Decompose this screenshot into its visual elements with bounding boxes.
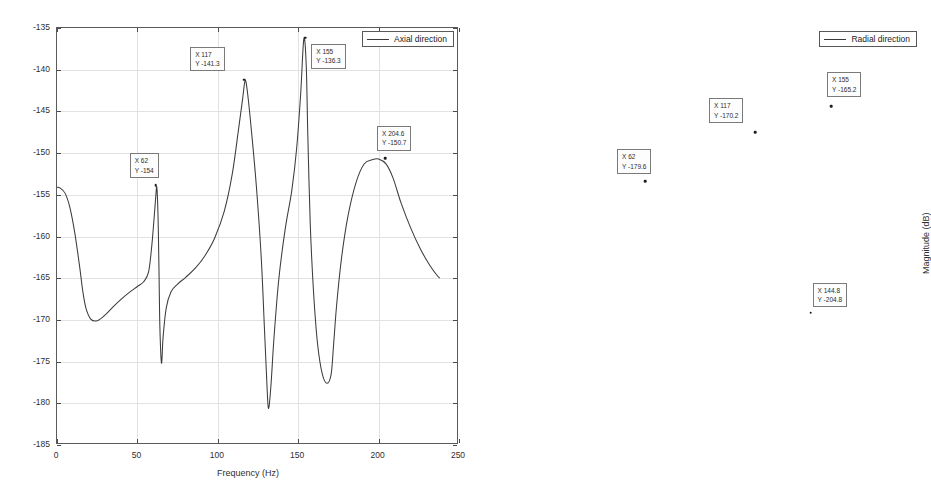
data-curve-axial bbox=[57, 28, 459, 445]
data-point-marker[interactable] bbox=[384, 157, 387, 160]
data-tip-label[interactable]: X 204.6Y -150.7 bbox=[377, 126, 411, 151]
data-tip-x-value: X 155 bbox=[316, 47, 340, 56]
y-axis-tick-label: -140 bbox=[4, 64, 50, 73]
y-axis-tick-label: -135 bbox=[4, 23, 50, 32]
data-point-marker[interactable] bbox=[644, 180, 647, 183]
data-tip-y-value: Y -150.7 bbox=[382, 138, 406, 147]
data-tip-x-value: X 144.8 bbox=[818, 286, 842, 295]
data-tip-x-value: X 155 bbox=[832, 75, 856, 84]
data-tip-y-value: Y -136.3 bbox=[316, 56, 340, 65]
x-axis-tick-label: 150 bbox=[290, 451, 304, 460]
legend-radial[interactable]: Radial direction bbox=[819, 31, 917, 47]
panel-axial: -135-140-145-150-155-160-165-170-175-180… bbox=[0, 0, 466, 502]
x-axis-tick-label: 250 bbox=[451, 451, 465, 460]
legend-label: Axial direction bbox=[394, 34, 447, 44]
figure-two-panel-frequency-response: -135-140-145-150-155-160-165-170-175-180… bbox=[0, 0, 931, 502]
x-tick-mark bbox=[459, 28, 460, 32]
y-axis-tick-label: -150 bbox=[4, 148, 50, 157]
data-tip-x-value: X 117 bbox=[714, 101, 738, 110]
data-tip-label[interactable]: X 117Y -170.2 bbox=[709, 98, 743, 123]
data-tip-x-value: X 62 bbox=[135, 156, 154, 165]
data-tip-label[interactable]: X 117Y -141.3 bbox=[190, 47, 224, 72]
x-tick-mark bbox=[459, 439, 460, 443]
legend-axial[interactable]: Axial direction bbox=[362, 31, 454, 47]
legend-line-swatch bbox=[367, 39, 389, 40]
plot-area-axial bbox=[56, 27, 458, 444]
data-point-marker[interactable] bbox=[243, 78, 246, 81]
y-axis-tick-label: -160 bbox=[4, 231, 50, 240]
data-tip-label[interactable]: X 144.8Y -204.8 bbox=[813, 283, 847, 308]
x-axis-tick-label: 200 bbox=[371, 451, 385, 460]
y-tick-mark bbox=[57, 445, 61, 446]
data-tip-x-value: X 62 bbox=[622, 152, 646, 161]
y-axis-tick-label: -155 bbox=[4, 190, 50, 199]
data-point-marker[interactable] bbox=[830, 105, 833, 108]
data-tip-label[interactable]: X 155Y -165.2 bbox=[827, 72, 861, 97]
x-axis-tick-label: 50 bbox=[132, 451, 141, 460]
data-tip-x-value: X 117 bbox=[195, 50, 219, 59]
x-axis-tick-label: 0 bbox=[54, 451, 59, 460]
x-axis-tick-label: 100 bbox=[210, 451, 224, 460]
y-tick-mark bbox=[453, 445, 457, 446]
x-axis-title: Frequency (Hz) bbox=[217, 468, 279, 478]
data-tip-label[interactable]: X 155Y -136.3 bbox=[311, 44, 345, 69]
data-tip-y-value: Y -179.6 bbox=[622, 162, 646, 171]
series-path bbox=[57, 38, 440, 408]
data-tip-y-value: Y -165.2 bbox=[832, 85, 856, 94]
data-point-marker[interactable] bbox=[304, 37, 307, 40]
legend-label: Radial direction bbox=[851, 34, 910, 44]
data-point-marker[interactable] bbox=[754, 131, 757, 134]
y-axis-tick-label: -175 bbox=[4, 356, 50, 365]
y-axis-tick-label: -180 bbox=[4, 398, 50, 407]
data-tip-label[interactable]: X 62Y -154 bbox=[130, 153, 159, 178]
legend-line-swatch bbox=[824, 39, 846, 40]
y-axis-tick-label: -185 bbox=[4, 440, 50, 449]
data-point-marker[interactable] bbox=[154, 184, 157, 187]
data-tip-x-value: X 204.6 bbox=[382, 129, 406, 138]
data-tip-y-value: Y -141.3 bbox=[195, 59, 219, 68]
y-axis-tick-label: -170 bbox=[4, 315, 50, 324]
data-tip-label[interactable]: X 62Y -179.6 bbox=[617, 149, 651, 174]
data-tip-y-value: Y -154 bbox=[135, 166, 154, 175]
data-tip-y-value: Y -204.8 bbox=[818, 295, 842, 304]
y-axis-tick-label: -165 bbox=[4, 273, 50, 282]
data-tip-y-value: Y -170.2 bbox=[714, 111, 738, 120]
data-point-marker[interactable] bbox=[809, 311, 812, 314]
y-axis-title: Magnitude (dB) bbox=[921, 212, 931, 274]
y-axis-tick-label: -145 bbox=[4, 106, 50, 115]
